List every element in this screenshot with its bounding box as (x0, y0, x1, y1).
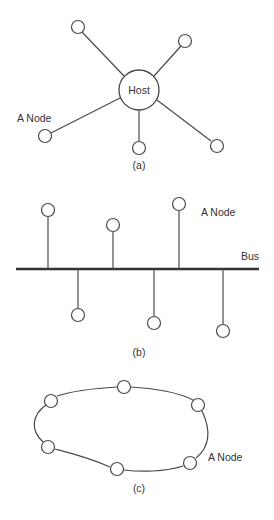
star-node-label: A Node (17, 112, 52, 124)
star-node (211, 140, 224, 153)
bus-node (148, 317, 161, 330)
bus-node (72, 309, 85, 322)
ring-node (42, 441, 55, 454)
network-topologies-diagram: Host A Node (a) A Node Bus (b) A Node (c… (0, 0, 274, 520)
star-topology: Host A Node (a) (17, 21, 224, 172)
bus-node (107, 219, 120, 232)
bus-node-label: A Node (201, 206, 236, 218)
bus-node (42, 204, 55, 217)
bus-node (217, 325, 230, 338)
star-node (133, 142, 146, 155)
caption-a: (a) (133, 159, 146, 171)
star-node (39, 130, 52, 143)
star-link (157, 100, 211, 141)
star-link (51, 98, 120, 133)
caption-b: (b) (133, 346, 146, 358)
ring-node-label: A Node (208, 451, 243, 463)
bus-topology: A Node Bus (b) (16, 198, 259, 359)
ring-node (111, 463, 124, 476)
ring-node (192, 399, 205, 412)
ring-node (45, 395, 58, 408)
bus-node (173, 198, 186, 211)
star-node (72, 21, 85, 34)
star-link (154, 46, 181, 76)
ring-link (34, 387, 208, 471)
caption-c: (c) (133, 482, 145, 494)
star-node (179, 35, 192, 48)
host-label: Host (128, 84, 150, 96)
bus-label: Bus (241, 250, 259, 262)
star-link (82, 32, 124, 76)
ring-node (184, 457, 197, 470)
ring-topology: A Node (c) (34, 381, 242, 495)
ring-node (118, 381, 131, 394)
